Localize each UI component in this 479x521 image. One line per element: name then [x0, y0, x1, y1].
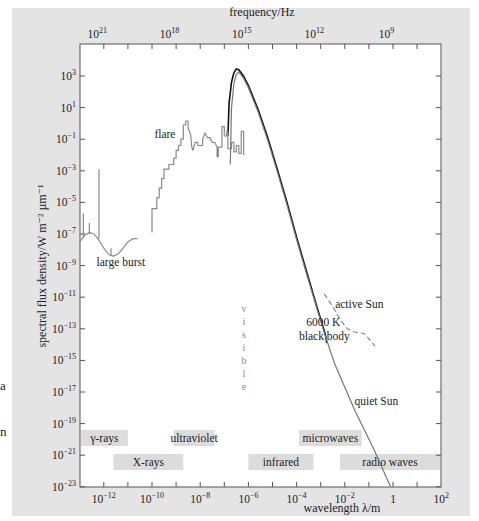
- x-tick-label: 1: [390, 493, 396, 505]
- x-axis-title: wavelength λ/m: [304, 501, 381, 515]
- annotation-label: quiet Sun: [354, 395, 398, 408]
- x-tick-label: 102: [433, 491, 449, 505]
- y-axis-title: spectral flux density/W m⁻² µm⁻¹: [35, 184, 49, 348]
- y-tick-label: 10−3: [56, 163, 76, 177]
- band-label: γ-rays: [89, 432, 119, 445]
- x-tick-label: 10−12: [92, 491, 116, 505]
- top-axis-title: frequency/Hz: [229, 5, 294, 19]
- top-tick-label: 1021: [88, 26, 108, 40]
- visible-label-char: e: [242, 381, 247, 392]
- band-label: microwaves: [303, 432, 359, 444]
- visible-label-char: v: [242, 303, 247, 314]
- y-tick-label: 10−23: [52, 479, 76, 493]
- top-tick-label: 109: [379, 26, 395, 40]
- x-tick-label: 10−6: [238, 491, 258, 505]
- y-tick-label: 10−21: [52, 447, 76, 461]
- top-tick-label: 1015: [232, 26, 252, 40]
- y-tick-label: 10−17: [52, 384, 76, 398]
- solar-spectrum-chart: γ-raysultravioletmicrowavesX-raysinfrare…: [0, 0, 479, 521]
- visible-label-char: l: [243, 368, 246, 379]
- band-label: ultraviolet: [171, 432, 219, 444]
- annotation-label: 6000 K: [306, 316, 341, 328]
- visible-label-char: b: [242, 355, 247, 366]
- y-tick-label: 10−9: [56, 258, 76, 272]
- top-tick-label: 1018: [160, 26, 180, 40]
- y-tick-label: 10−7: [56, 226, 76, 240]
- y-tick-label: 10−13: [52, 321, 76, 335]
- x-tick-label: 10−10: [140, 491, 164, 505]
- y-tick-label: 10−1: [56, 131, 76, 145]
- y-tick-label: 10−5: [56, 194, 76, 208]
- y-tick-label: 10−11: [52, 289, 76, 303]
- band-label: radio waves: [362, 456, 418, 468]
- visible-label-char: i: [243, 342, 246, 353]
- visible-label-char: s: [242, 329, 246, 340]
- visible-label-char: i: [243, 316, 246, 327]
- y-tick-label: 10−15: [52, 352, 76, 366]
- band-label: X-rays: [133, 456, 165, 469]
- y-tick-label: 10−19: [52, 416, 76, 430]
- annotation-label: large burst: [97, 256, 146, 269]
- band-label: infrared: [263, 456, 300, 468]
- y-tick-label: 101: [61, 100, 77, 114]
- top-tick-label: 1012: [304, 26, 324, 40]
- y-tick-label: 103: [61, 68, 77, 82]
- annotation-label: black body: [299, 330, 350, 343]
- annotation-label: flare: [154, 128, 175, 140]
- x-tick-label: 10−8: [190, 491, 210, 505]
- annotation-label: active Sun: [335, 298, 383, 310]
